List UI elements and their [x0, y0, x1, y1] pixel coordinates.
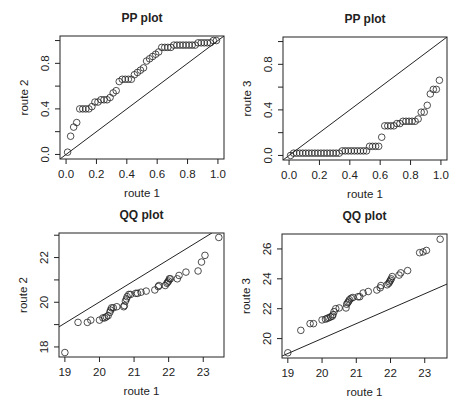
data-point: [356, 293, 363, 300]
data-points: [62, 234, 223, 356]
x-tick-label: 21: [350, 367, 363, 379]
plots-canvas: PP plot0.00.20.40.60.81.0route 10.00.40.…: [0, 0, 463, 410]
x-tick-label: 1.0: [433, 169, 449, 181]
y-tick-label: 20: [38, 296, 50, 309]
panel-title: PP plot: [121, 11, 162, 25]
panel-title: PP plot: [344, 12, 385, 26]
panel-title: QQ plot: [343, 209, 387, 223]
figure: PP plot0.00.20.40.60.81.0route 10.00.40.…: [0, 0, 463, 410]
x-axis: 0.00.20.40.60.81.0: [58, 159, 226, 180]
x-tick-label: 0.6: [372, 169, 388, 181]
y-tick-label: 0.0: [262, 147, 274, 163]
x-tick-label: 23: [418, 367, 431, 379]
x-tick-label: 19: [281, 367, 294, 379]
data-point: [378, 282, 385, 289]
y-axis-label: route 2: [18, 80, 30, 116]
data-point: [437, 236, 444, 243]
y-axis-label: route 3: [241, 81, 253, 117]
x-tick-label: 21: [128, 366, 141, 378]
y-tick-label: 24: [261, 272, 273, 285]
x-axis-label: route 1: [124, 385, 160, 397]
x-tick-label: 0.2: [88, 168, 104, 180]
x-tick-label: 0.8: [180, 168, 196, 180]
x-tick-label: 1.0: [210, 168, 226, 180]
x-tick-label: 0.8: [403, 169, 419, 181]
x-tick-label: 20: [316, 367, 329, 379]
x-axis: 1920212223: [58, 357, 209, 378]
x-axis: 1920212223: [281, 358, 431, 379]
data-point: [298, 327, 305, 334]
x-tick-label: 23: [197, 366, 210, 378]
x-tick-label: 0.0: [58, 168, 74, 180]
data-point: [404, 267, 411, 274]
data-point: [67, 133, 74, 140]
y-axis: 0.00.40.8: [39, 41, 60, 163]
data-point: [389, 273, 396, 280]
y-tick-label: 0.8: [39, 55, 51, 71]
data-point: [378, 134, 385, 141]
y-axis: 0.00.40.8: [262, 42, 283, 164]
y-tick-label: 22: [261, 302, 273, 315]
y-tick-label: 0.8: [262, 56, 274, 72]
y-tick-label: 20: [261, 332, 273, 345]
data-point: [424, 102, 431, 109]
data-point: [436, 77, 443, 84]
data-point: [62, 349, 69, 356]
x-tick-label: 22: [384, 367, 397, 379]
data-point: [427, 91, 434, 98]
reference-line: [59, 233, 212, 327]
data-point: [70, 124, 77, 131]
y-tick-label: 22: [38, 251, 50, 264]
data-point: [198, 259, 205, 266]
x-tick-label: 0.4: [342, 169, 359, 181]
panel-pp13: PP plot0.00.20.40.60.81.0route 10.00.40.…: [241, 12, 449, 200]
data-point: [75, 319, 82, 326]
panel-qq13: QQ plot1920212223route 120222426route 3: [240, 209, 447, 398]
reference-line: [60, 36, 224, 159]
y-axis-label: route 3: [240, 278, 252, 314]
panel-qq12: QQ plot1920212223route 1182022route 2: [17, 208, 224, 397]
x-axis-label: route 1: [347, 386, 383, 398]
x-tick-label: 0.0: [281, 169, 297, 181]
y-tick-label: 18: [38, 341, 50, 354]
data-point: [397, 270, 404, 277]
data-point: [396, 272, 403, 279]
x-tick-label: 22: [162, 366, 175, 378]
y-tick-label: 0.0: [39, 146, 51, 162]
data-point: [216, 234, 223, 241]
y-tick-label: 0.4: [262, 101, 274, 118]
panel-pp12: PP plot0.00.20.40.60.81.0route 10.00.40.…: [18, 11, 226, 199]
y-axis-label: route 2: [17, 277, 29, 313]
data-point: [202, 252, 209, 259]
x-axis-label: route 1: [124, 187, 160, 199]
x-tick-label: 19: [58, 366, 71, 378]
data-point: [195, 268, 202, 275]
x-tick-label: 20: [93, 366, 106, 378]
y-tick-label: 26: [261, 243, 273, 256]
x-axis-label: route 1: [347, 188, 383, 200]
y-axis: 182022: [38, 235, 59, 353]
reference-line: [282, 284, 447, 356]
y-tick-label: 0.4: [39, 100, 51, 117]
x-tick-label: 0.2: [311, 169, 327, 181]
y-axis: 20222426: [261, 243, 282, 345]
panel-title: QQ plot: [120, 208, 164, 222]
data-points: [287, 77, 442, 159]
x-tick-label: 0.4: [119, 168, 136, 180]
reference-line: [283, 37, 447, 160]
x-tick-label: 0.6: [149, 168, 165, 180]
data-point: [183, 269, 190, 276]
x-axis: 0.00.20.40.60.81.0: [281, 160, 449, 181]
data-point: [73, 119, 80, 126]
plot-frame: [59, 233, 224, 357]
